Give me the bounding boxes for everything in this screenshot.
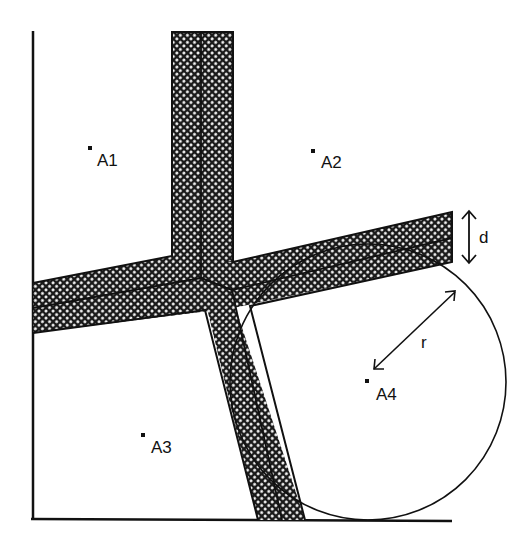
label-a1: A1: [97, 151, 118, 170]
road-buffer-zone: [33, 32, 452, 520]
point-a1: [88, 146, 92, 150]
label-a2: A2: [321, 153, 342, 172]
radius-label-r: r: [421, 333, 427, 352]
point-a3: [141, 433, 145, 437]
radius-arrow: [374, 291, 455, 369]
point-a4: [365, 379, 369, 383]
label-a4: A4: [376, 385, 397, 404]
label-a3: A3: [151, 438, 172, 457]
point-a2: [311, 149, 315, 153]
diagram-canvas: A1 A2 A3 A4 d r: [0, 0, 526, 543]
width-dimension-arrow: [462, 211, 476, 263]
width-label-d: d: [479, 228, 488, 247]
